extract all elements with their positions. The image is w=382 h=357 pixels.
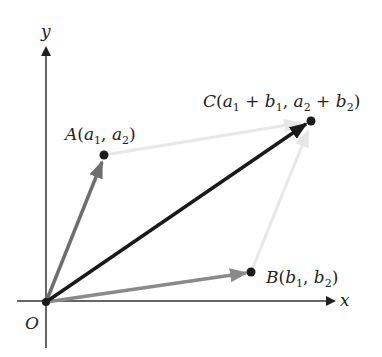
- point-a-label: A(a1, a2): [63, 124, 136, 147]
- vector-ob: [46, 273, 246, 302]
- point-c-label: C(a1 + b1, a2 + b2): [203, 91, 360, 114]
- vector-diagram: y x O A(a1, a2) B(b1, b2) C(a1 + b1, a2 …: [0, 0, 382, 357]
- origin-point: [42, 298, 50, 306]
- x-axis-label: x: [340, 290, 350, 310]
- point-b: [247, 268, 256, 277]
- point-c: [307, 117, 316, 126]
- origin-label: O: [25, 313, 39, 333]
- point-b-label: B(b1, b2): [265, 267, 338, 290]
- point-a: [100, 151, 109, 160]
- vector-bc: [251, 131, 308, 272]
- y-axis-label: y: [40, 21, 51, 41]
